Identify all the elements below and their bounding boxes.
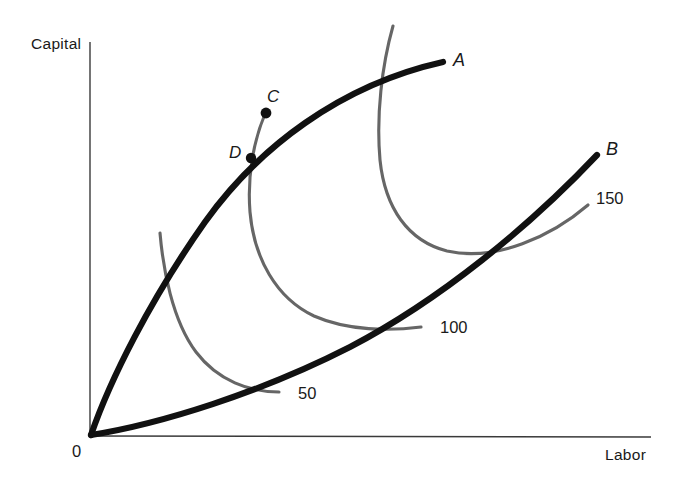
origin-label: 0 (72, 443, 81, 460)
expansion-path-b (91, 155, 597, 435)
point-d-label: D (229, 144, 241, 161)
expansion-path-a-label: A (453, 51, 465, 69)
expansion-path-b-label: B (606, 140, 618, 158)
x-axis-label: Labor (605, 447, 646, 463)
isoquant-curve-150 (379, 26, 588, 254)
figure-canvas (0, 0, 680, 485)
x-axis (90, 436, 651, 437)
point-c-label: C (267, 88, 279, 105)
isoquant-label-50: 50 (298, 385, 316, 402)
point-d-marker (246, 153, 256, 163)
point-c-marker (261, 108, 272, 119)
isoquant-label-100: 100 (440, 319, 468, 336)
y-axis-label: Capital (31, 36, 81, 52)
isoquant-label-150: 150 (596, 190, 624, 207)
isoquant-expansion-path-figure: Capital Labor 0 A B C D 50 100 150 (0, 0, 680, 485)
